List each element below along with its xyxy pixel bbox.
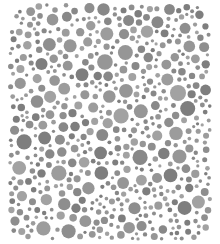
dot bbox=[183, 4, 190, 11]
dot bbox=[146, 64, 152, 70]
dot bbox=[26, 7, 35, 16]
dot bbox=[18, 10, 22, 14]
dot bbox=[125, 61, 128, 64]
dot bbox=[8, 64, 14, 70]
dot bbox=[147, 78, 153, 84]
dot bbox=[142, 95, 146, 99]
dot bbox=[103, 72, 113, 82]
dot bbox=[195, 211, 199, 215]
dot bbox=[109, 214, 114, 219]
dot bbox=[81, 134, 87, 140]
dot bbox=[131, 237, 134, 240]
dot bbox=[115, 136, 121, 142]
dot bbox=[116, 197, 120, 201]
dot bbox=[159, 110, 162, 113]
dot bbox=[152, 211, 156, 215]
dot bbox=[109, 198, 115, 204]
dot bbox=[90, 207, 94, 211]
dot bbox=[181, 53, 185, 57]
dot bbox=[143, 232, 147, 236]
dot bbox=[117, 231, 125, 239]
dot bbox=[201, 188, 209, 196]
dot bbox=[190, 9, 194, 13]
dot bbox=[114, 87, 118, 91]
dot bbox=[134, 92, 140, 98]
dot bbox=[100, 185, 104, 189]
dot bbox=[176, 166, 180, 170]
dot bbox=[165, 202, 169, 206]
dot bbox=[105, 210, 109, 214]
dot bbox=[205, 166, 210, 171]
dot bbox=[49, 75, 60, 86]
dot bbox=[99, 88, 102, 91]
dot bbox=[69, 214, 77, 222]
dot bbox=[151, 122, 155, 126]
dot bbox=[54, 184, 58, 188]
dot bbox=[206, 53, 209, 56]
dot bbox=[169, 218, 173, 222]
dot bbox=[155, 30, 159, 34]
dot bbox=[121, 7, 127, 13]
dot bbox=[31, 187, 37, 193]
dot bbox=[68, 109, 76, 117]
dot bbox=[179, 14, 184, 19]
dot bbox=[185, 145, 193, 153]
dot bbox=[65, 97, 69, 101]
dot bbox=[130, 147, 133, 150]
dot bbox=[76, 68, 89, 81]
dot bbox=[197, 225, 201, 229]
dot bbox=[13, 186, 18, 191]
dot bbox=[27, 22, 33, 28]
dot bbox=[148, 205, 153, 210]
dot bbox=[185, 184, 193, 192]
dot bbox=[190, 15, 194, 19]
dot bbox=[168, 161, 173, 166]
dot bbox=[202, 60, 210, 68]
dot bbox=[196, 6, 199, 9]
dot bbox=[46, 52, 50, 56]
dot bbox=[127, 104, 133, 110]
dot bbox=[183, 77, 187, 81]
dot bbox=[156, 51, 161, 56]
dot bbox=[114, 170, 120, 176]
dot bbox=[96, 39, 101, 44]
dot bbox=[57, 37, 63, 43]
dot bbox=[46, 110, 55, 119]
dot bbox=[200, 103, 205, 108]
dot bbox=[22, 119, 26, 123]
dot bbox=[83, 150, 87, 154]
dot bbox=[158, 96, 163, 101]
dot bbox=[176, 8, 181, 13]
dot bbox=[166, 24, 170, 28]
dot bbox=[175, 39, 181, 45]
dot bbox=[101, 105, 104, 108]
dot bbox=[73, 188, 81, 196]
dot bbox=[62, 224, 76, 238]
dot bbox=[73, 95, 77, 99]
dot bbox=[35, 215, 39, 219]
dot bbox=[10, 217, 19, 226]
dot bbox=[151, 39, 154, 42]
dot bbox=[118, 215, 126, 223]
dot bbox=[58, 198, 70, 210]
dot bbox=[137, 35, 141, 39]
dot bbox=[180, 236, 184, 240]
dot bbox=[173, 213, 177, 217]
dot bbox=[123, 166, 130, 173]
dot bbox=[63, 54, 69, 60]
dot bbox=[41, 194, 52, 205]
dot bbox=[136, 175, 147, 186]
dot bbox=[10, 94, 15, 99]
dot bbox=[143, 83, 146, 86]
dot bbox=[74, 101, 82, 109]
dot bbox=[114, 63, 118, 67]
dot bbox=[129, 5, 135, 11]
dot bbox=[183, 41, 195, 53]
dot bbox=[131, 62, 139, 70]
dot bbox=[182, 164, 191, 173]
dot bbox=[135, 166, 138, 169]
dot bbox=[158, 148, 170, 160]
dot bbox=[53, 69, 57, 73]
dot bbox=[141, 25, 153, 37]
dot bbox=[178, 68, 186, 76]
